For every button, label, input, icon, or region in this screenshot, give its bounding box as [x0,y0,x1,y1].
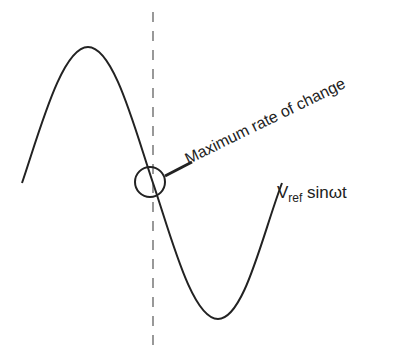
sine-curve [22,47,282,319]
vref-symbol: V [277,183,288,202]
vref-subscript: ref [288,191,302,205]
sin-function: sinωt [307,183,347,202]
vref-sin-label: Vref sinωt [277,183,347,205]
sine-diagram [0,0,405,357]
